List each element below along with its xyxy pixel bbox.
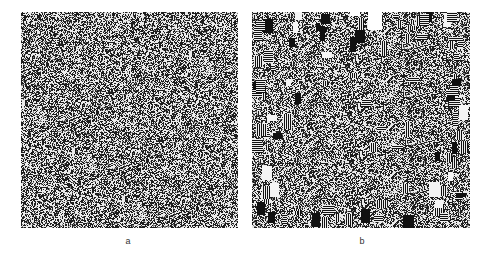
noise-image-panel-a xyxy=(21,12,238,228)
noise-image-b xyxy=(252,12,470,228)
noise-image-panel-b xyxy=(252,12,470,228)
panel-label-b: b xyxy=(352,236,372,246)
panel-label-a: a xyxy=(118,236,138,246)
noise-image-a xyxy=(21,12,238,228)
